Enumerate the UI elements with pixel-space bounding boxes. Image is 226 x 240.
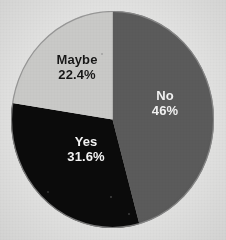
pie-slice-maybe	[11, 11, 113, 120]
pie-chart-image: Maybe 22.4% No 46% Yes 31.6%	[0, 0, 226, 240]
pie-chart-svg	[11, 11, 214, 228]
pie-chart	[11, 11, 214, 228]
